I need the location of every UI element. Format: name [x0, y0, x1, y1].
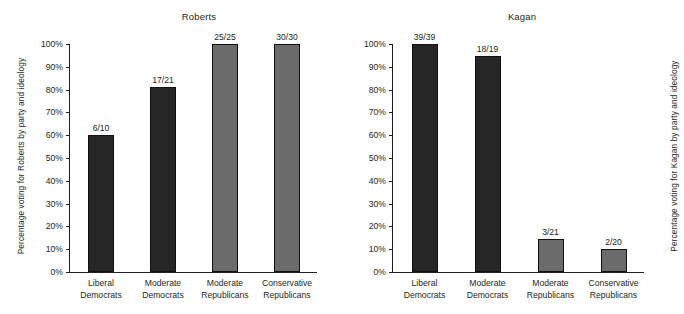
x-axis-category-label: LiberalDemocrats: [80, 278, 122, 301]
y-tick-mark: [66, 90, 70, 91]
y-tick-mark: [66, 272, 70, 273]
y-tick-label: 100%: [41, 39, 63, 49]
y-tick-mark: [66, 44, 70, 45]
bar-slot: 17/21: [132, 44, 194, 272]
category-line-2: Republicans: [201, 290, 248, 302]
category-line-1: Liberal: [404, 278, 446, 290]
y-tick-label: 30%: [369, 199, 386, 209]
bar-slot: 30/30: [256, 44, 318, 272]
y-tick-mark: [389, 135, 393, 136]
category-line-2: Democrats: [80, 290, 122, 302]
x-axis-category-label: ModerateRepublicans: [527, 278, 574, 301]
y-tick-label: 80%: [369, 85, 386, 95]
bar: [150, 87, 176, 272]
y-tick-label: 70%: [369, 107, 386, 117]
bar-slot: 3/21: [519, 44, 582, 272]
category-line-1: Liberal: [80, 278, 122, 290]
bar-value-label: 25/25: [214, 32, 236, 42]
category-line-2: Democrats: [467, 290, 509, 302]
bar-value-label: 30/30: [276, 32, 298, 42]
x-axis-category-label: ModerateDemocrats: [142, 278, 184, 301]
x-axis-category-label: ConservativeRepublicans: [588, 278, 638, 301]
y-tick-label: 70%: [46, 107, 63, 117]
y-tick-mark: [389, 204, 393, 205]
bar: [212, 44, 238, 272]
y-tick-mark: [66, 204, 70, 205]
category-line-1: Moderate: [142, 278, 184, 290]
y-tick-label: 50%: [369, 153, 386, 163]
y-axis-title-kagan: Percentage voting for Kagan by party and…: [667, 36, 681, 276]
y-axis-title-roberts: Percentage voting for Roberts by party a…: [14, 36, 28, 276]
category-line-1: Moderate: [527, 278, 574, 290]
category-line-2: Republicans: [527, 290, 574, 302]
bar-value-label: 17/21: [152, 75, 174, 85]
panel-title-kagan: Kagan: [331, 11, 684, 22]
bar: [475, 56, 501, 272]
y-tick-mark: [389, 67, 393, 68]
y-tick-mark: [389, 181, 393, 182]
x-axis-category-label: ModerateRepublicans: [201, 278, 248, 301]
y-tick-mark: [389, 158, 393, 159]
y-tick-label: 40%: [46, 176, 63, 186]
y-tick-mark: [389, 249, 393, 250]
x-axis-category-label: ModerateDemocrats: [467, 278, 509, 301]
plot-area-roberts: 0%10%20%30%40%50%60%70%80%90%100% 6/1017…: [70, 44, 318, 272]
category-line-2: Democrats: [404, 290, 446, 302]
y-tick-label: 40%: [369, 176, 386, 186]
y-tick-label: 30%: [46, 199, 63, 209]
y-tick-label: 0%: [374, 267, 386, 277]
category-line-2: Democrats: [142, 290, 184, 302]
category-line-2: Republicans: [588, 290, 638, 302]
y-tick-mark: [66, 249, 70, 250]
panel-title-roberts: Roberts: [0, 11, 364, 22]
bar-value-label: 18/19: [477, 44, 499, 54]
category-line-1: Conservative: [262, 278, 312, 290]
x-axis-category-label: LiberalDemocrats: [404, 278, 446, 301]
y-tick-label: 0%: [51, 267, 63, 277]
bar: [601, 249, 627, 272]
x-axis-category-label: ConservativeRepublicans: [262, 278, 312, 301]
bar-value-label: 6/10: [93, 123, 110, 133]
y-tick-label: 10%: [369, 244, 386, 254]
y-tick-mark: [389, 226, 393, 227]
y-tick-label: 50%: [46, 153, 63, 163]
bar: [538, 239, 564, 272]
y-tick-label: 20%: [46, 221, 63, 231]
bar-value-label: 39/39: [414, 32, 436, 42]
bar: [412, 44, 438, 272]
y-tick-label: 60%: [369, 130, 386, 140]
bar-group-roberts: 6/1017/2125/2530/30: [70, 44, 318, 272]
y-tick-mark: [66, 67, 70, 68]
y-tick-mark: [66, 226, 70, 227]
category-line-1: Moderate: [201, 278, 248, 290]
y-tick-mark: [66, 135, 70, 136]
category-line-1: Moderate: [467, 278, 509, 290]
bar-value-label: 2/20: [605, 237, 622, 247]
bar: [274, 44, 300, 272]
category-line-2: Republicans: [262, 290, 312, 302]
bar-slot: 25/25: [194, 44, 256, 272]
y-tick-mark: [389, 272, 393, 273]
bar: [88, 135, 114, 272]
y-tick-mark: [66, 158, 70, 159]
bar-slot: 39/39: [393, 44, 456, 272]
y-tick-label: 90%: [46, 62, 63, 72]
y-tick-label: 10%: [46, 244, 63, 254]
x-axis-line: [392, 272, 644, 273]
y-tick-mark: [66, 112, 70, 113]
y-tick-label: 60%: [46, 130, 63, 140]
plot-area-kagan: 0%10%20%30%40%50%60%70%80%90%100% 39/391…: [393, 44, 645, 272]
bar-slot: 18/19: [456, 44, 519, 272]
category-line-1: Conservative: [588, 278, 638, 290]
bar-value-label: 3/21: [542, 227, 559, 237]
bar-slot: 6/10: [70, 44, 132, 272]
chart-panel-kagan: Kagan Percentage voting for Kagan by par…: [331, 0, 661, 314]
y-tick-label: 20%: [369, 221, 386, 231]
y-tick-mark: [389, 90, 393, 91]
chart-panel-roberts: Roberts Percentage voting for Roberts by…: [0, 0, 330, 314]
y-tick-label: 80%: [46, 85, 63, 95]
x-axis-line: [69, 272, 317, 273]
y-tick-label: 90%: [369, 62, 386, 72]
bar-group-kagan: 39/3918/193/212/20: [393, 44, 645, 272]
